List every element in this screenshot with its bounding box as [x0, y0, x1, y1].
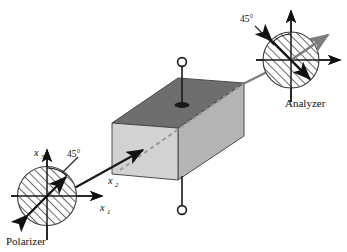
electrode-bottom-terminal — [178, 206, 187, 215]
analyzer-label: Analyzer — [285, 97, 326, 109]
analyzer-angle-label: 45° — [240, 14, 254, 24]
polarizer-angle-label: 45° — [67, 149, 81, 159]
polarizer-x2-sub: 2 — [115, 181, 119, 189]
polarizer-x3-label: x — [33, 147, 39, 158]
polarizer-label: Polarizer — [6, 235, 46, 247]
optics-diagram-figure: x 3 x 1 x 2 45° Polarizer 45° Analyzer — [0, 0, 347, 252]
polarizer-x1-label: x — [99, 202, 105, 213]
polarizer-x3-sub: 3 — [40, 153, 45, 161]
polarizer-x1-sub: 1 — [107, 208, 111, 216]
diagram-canvas: x 3 x 1 x 2 45° Polarizer 45° Analyzer — [0, 0, 347, 252]
electrode-top-terminal — [178, 58, 187, 67]
polarizer-x2-label: x — [107, 175, 113, 186]
